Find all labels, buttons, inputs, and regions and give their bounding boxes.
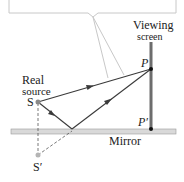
point-p-prime (149, 127, 153, 131)
s-prime-label: S′ (33, 160, 43, 174)
mirror-label: Mirror (109, 134, 141, 148)
p-label: P (140, 56, 149, 70)
viewing-label: Viewing (133, 18, 174, 32)
s-label: S (27, 95, 34, 109)
point-p (149, 67, 153, 71)
arrow-icon (86, 85, 94, 90)
optics-diagram: Viewing screen Real source S S′ P P′ Mir… (0, 0, 184, 182)
real-source-point (36, 100, 41, 105)
viewing-screen (150, 42, 153, 129)
light-rays (38, 69, 151, 129)
p-prime-label: P′ (137, 115, 148, 129)
screen-label: screen (137, 31, 163, 42)
virtual-source-point (36, 153, 41, 158)
